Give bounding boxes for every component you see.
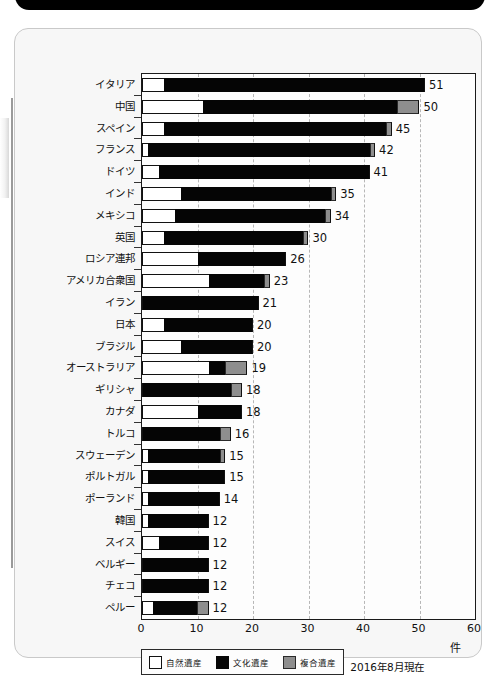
bar-value-label: 12: [213, 514, 228, 528]
bar-row: [142, 143, 375, 157]
category-label: メキシコ: [95, 208, 135, 222]
x-tick-label: 30: [301, 622, 315, 635]
legend-label-cultural: 文化遺産: [233, 656, 269, 668]
bar-row: [142, 601, 209, 615]
category-label: アメリカ合衆国: [66, 273, 135, 287]
bar-segment-mixed: [325, 209, 331, 223]
bar-segment-cultural: [159, 165, 370, 179]
legend-swatch-mixed-icon: [283, 656, 296, 669]
bar-segment-cultural: [142, 427, 220, 441]
category-label: ドイツ: [105, 164, 135, 178]
bar-segment-natural: [142, 165, 159, 179]
bar-value-label: 18: [246, 405, 261, 419]
plot-area: 5150454241353430262321202019181816151514…: [141, 73, 476, 620]
legend-item-mixed: 複合遺産: [283, 656, 336, 669]
category-tick: [134, 313, 141, 314]
legend-item-natural: 自然遺産: [149, 656, 202, 669]
legend-label-natural: 自然遺産: [166, 656, 202, 668]
bar-row: [142, 558, 209, 572]
bar-segment-cultural: [175, 209, 325, 223]
category-label: スウェーデン: [75, 448, 135, 462]
chart-card: イタリア中国スペインフランスドイツインドメキシコ英国ロシア連邦アメリカ合衆国イラ…: [14, 28, 482, 658]
bar-row: [142, 514, 209, 528]
bar-segment-cultural: [164, 122, 386, 136]
top-banner: [15, 0, 485, 10]
bar-segment-cultural: [142, 579, 209, 593]
bar-segment-cultural: [164, 78, 425, 92]
category-label: フランス: [95, 142, 135, 156]
bar-row: [142, 78, 425, 92]
bar-segment-mixed: [225, 361, 247, 375]
bar-segment-cultural: [203, 100, 397, 114]
bar-row: [142, 470, 225, 484]
bar-segment-mixed: [220, 449, 226, 463]
category-tick: [134, 269, 141, 270]
bar-segment-natural: [142, 601, 153, 615]
axis-unit-label: 件: [450, 639, 461, 655]
bar-segment-cultural: [142, 383, 231, 397]
x-tick-label: 0: [138, 622, 145, 635]
category-tick: [134, 487, 141, 488]
bar-segment-cultural: [148, 492, 220, 506]
bar-value-label: 45: [396, 122, 411, 136]
category-tick: [134, 160, 141, 161]
bar-segment-mixed: [397, 100, 419, 114]
bar-segment-natural: [142, 209, 175, 223]
bar-value-label: 23: [274, 274, 289, 288]
category-tick: [134, 509, 141, 510]
bar-row: [142, 296, 259, 310]
bar-segment-natural: [142, 361, 209, 375]
bar-row: [142, 405, 242, 419]
bar-value-label: 20: [257, 340, 272, 354]
as-of-note: 2016年8月現在: [350, 659, 423, 674]
bar-row: [142, 383, 242, 397]
bar-value-label: 12: [213, 579, 228, 593]
bar-value-label: 21: [263, 296, 278, 310]
category-label: オーストラリア: [66, 360, 135, 374]
category-label: カナダ: [105, 404, 135, 418]
category-tick: [134, 335, 141, 336]
bar-value-label: 35: [340, 187, 355, 201]
category-tick: [134, 574, 141, 575]
bar-segment-natural: [142, 340, 181, 354]
bar-row: [142, 361, 247, 375]
bar-segment-natural: [142, 536, 159, 550]
category-label: ペルー: [105, 600, 135, 614]
category-tick: [134, 226, 141, 227]
x-tick-label: 40: [356, 622, 370, 635]
bar-segment-mixed: [370, 143, 376, 157]
category-label: インド: [105, 186, 135, 200]
bars-container: 5150454241353430262321202019181816151514…: [142, 74, 475, 619]
bar-row: [142, 231, 308, 245]
category-label: ブラジル: [95, 339, 135, 353]
x-tick-label: 10: [190, 622, 204, 635]
category-label: ベルギー: [95, 557, 135, 571]
category-tick: [134, 138, 141, 139]
category-tick: [134, 444, 141, 445]
bar-value-label: 16: [235, 427, 250, 441]
bar-segment-natural: [142, 187, 181, 201]
bar-row: [142, 449, 225, 463]
category-tick: [134, 356, 141, 357]
value-axis: 0102030405060: [141, 622, 476, 638]
bar-segment-mixed: [231, 383, 242, 397]
category-tick: [134, 465, 141, 466]
bar-segment-cultural: [181, 187, 331, 201]
bar-segment-natural: [142, 318, 164, 332]
bar-row: [142, 252, 286, 266]
bar-value-label: 18: [246, 383, 261, 397]
bar-segment-natural: [142, 405, 198, 419]
category-label: ポーランド: [85, 491, 135, 505]
legend-item-cultural: 文化遺産: [216, 656, 269, 669]
bar-value-label: 51: [429, 78, 444, 92]
bar-row: [142, 209, 331, 223]
bar-segment-cultural: [198, 252, 287, 266]
bar-segment-mixed: [303, 231, 309, 245]
bar-segment-cultural: [148, 143, 370, 157]
bar-row: [142, 427, 231, 441]
bar-segment-cultural: [153, 601, 197, 615]
bar-segment-natural: [142, 78, 164, 92]
category-tick: [134, 117, 141, 118]
page-edge-line: [11, 98, 13, 568]
bar-value-label: 19: [251, 361, 266, 375]
